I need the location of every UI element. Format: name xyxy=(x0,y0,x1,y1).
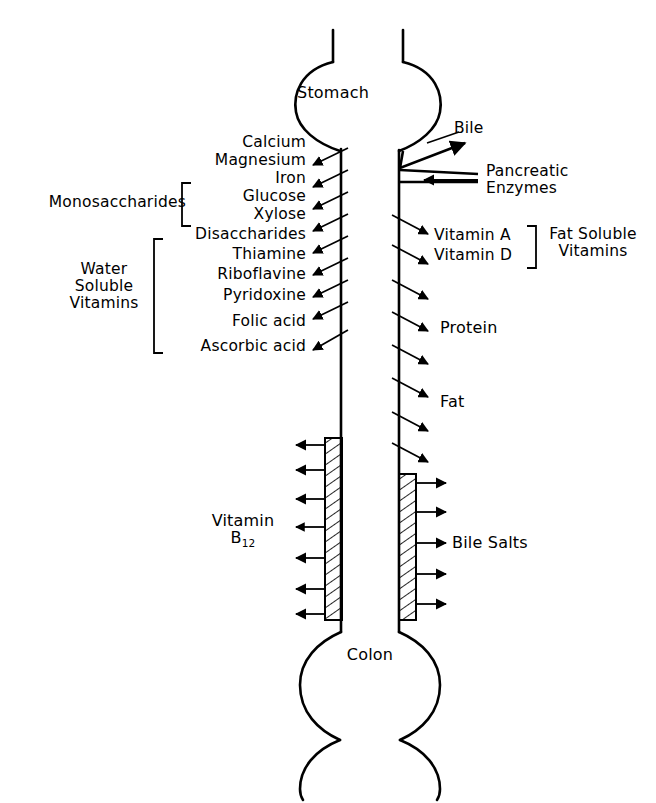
label-folic-acid: Folic acid xyxy=(232,312,306,330)
colon-upper-left-wall xyxy=(300,632,341,740)
vitamin-b12-subscript: 12 xyxy=(242,537,256,549)
label-fat: Fat xyxy=(440,392,464,411)
label-xylose: Xylose xyxy=(254,205,306,223)
bracket-water-soluble-vitamins xyxy=(154,239,163,353)
bile-salts-absorption-site xyxy=(399,474,416,620)
label-pancreatic-enzymes: Pancreatic Enzymes xyxy=(486,163,568,197)
vitamin-b12-arrows xyxy=(296,445,325,614)
label-bile: Bile xyxy=(454,119,484,137)
left-absorption-arrows xyxy=(313,148,348,350)
label-monosaccharides: Monosaccharides xyxy=(49,193,186,211)
fsv-line-2: Vitamins xyxy=(543,243,643,260)
diagram-canvas xyxy=(0,0,656,803)
pancreatic-enzymes-line-2: Enzymes xyxy=(486,180,568,197)
wsv-line-3: Vitamins xyxy=(60,295,148,312)
vitamin-b12-base: B xyxy=(231,528,242,547)
label-vitamin-b12: Vitamin B12 xyxy=(196,512,290,553)
pancreatic-enzymes-line-1: Pancreatic xyxy=(486,163,568,180)
vitamin-b12-absorption-site xyxy=(325,438,342,620)
label-vitamin-d: Vitamin D xyxy=(434,246,512,264)
wsv-line-2: Soluble xyxy=(60,278,148,295)
label-bile-salts: Bile Salts xyxy=(452,533,528,552)
stomach-right-wall xyxy=(399,62,441,151)
label-calcium: Calcium xyxy=(242,133,306,151)
label-fat-soluble-vitamins: Fat Soluble Vitamins xyxy=(543,226,643,260)
label-thiamine: Thiamine xyxy=(233,245,306,263)
label-glucose: Glucose xyxy=(243,187,306,205)
label-ascorbic-acid: Ascorbic acid xyxy=(201,337,306,355)
label-disaccharides: Disaccharides xyxy=(195,225,306,243)
right-secretion-arrows xyxy=(392,215,428,462)
vitamin-b12-line-1: Vitamin xyxy=(196,512,290,529)
colon-upper-right-wall xyxy=(399,632,440,740)
label-protein: Protein xyxy=(440,318,498,337)
colon-lower-right-wall xyxy=(400,740,440,800)
stomach-label: Stomach xyxy=(297,83,369,102)
bile-salts-arrows xyxy=(416,483,446,604)
colon-label: Colon xyxy=(347,645,393,664)
gi-tract-absorption-diagram: Stomach Colon Calcium Magnesium Iron Glu… xyxy=(0,0,656,803)
wsv-line-1: Water xyxy=(60,261,148,278)
label-iron: Iron xyxy=(275,169,306,187)
label-vitamin-a: Vitamin A xyxy=(434,226,511,244)
label-water-soluble-vitamins: Water Soluble Vitamins xyxy=(60,261,148,313)
colon-lower-left-wall xyxy=(300,740,340,800)
label-pyridoxine: Pyridoxine xyxy=(223,286,306,304)
label-magnesium: Magnesium xyxy=(215,151,306,169)
label-riboflavine: Riboflavine xyxy=(217,265,306,283)
gi-tract-outline xyxy=(295,30,440,800)
bracket-fat-soluble-vitamins xyxy=(527,226,536,268)
fsv-line-1: Fat Soluble xyxy=(543,226,643,243)
vitamin-b12-line-2: B12 xyxy=(196,529,290,552)
